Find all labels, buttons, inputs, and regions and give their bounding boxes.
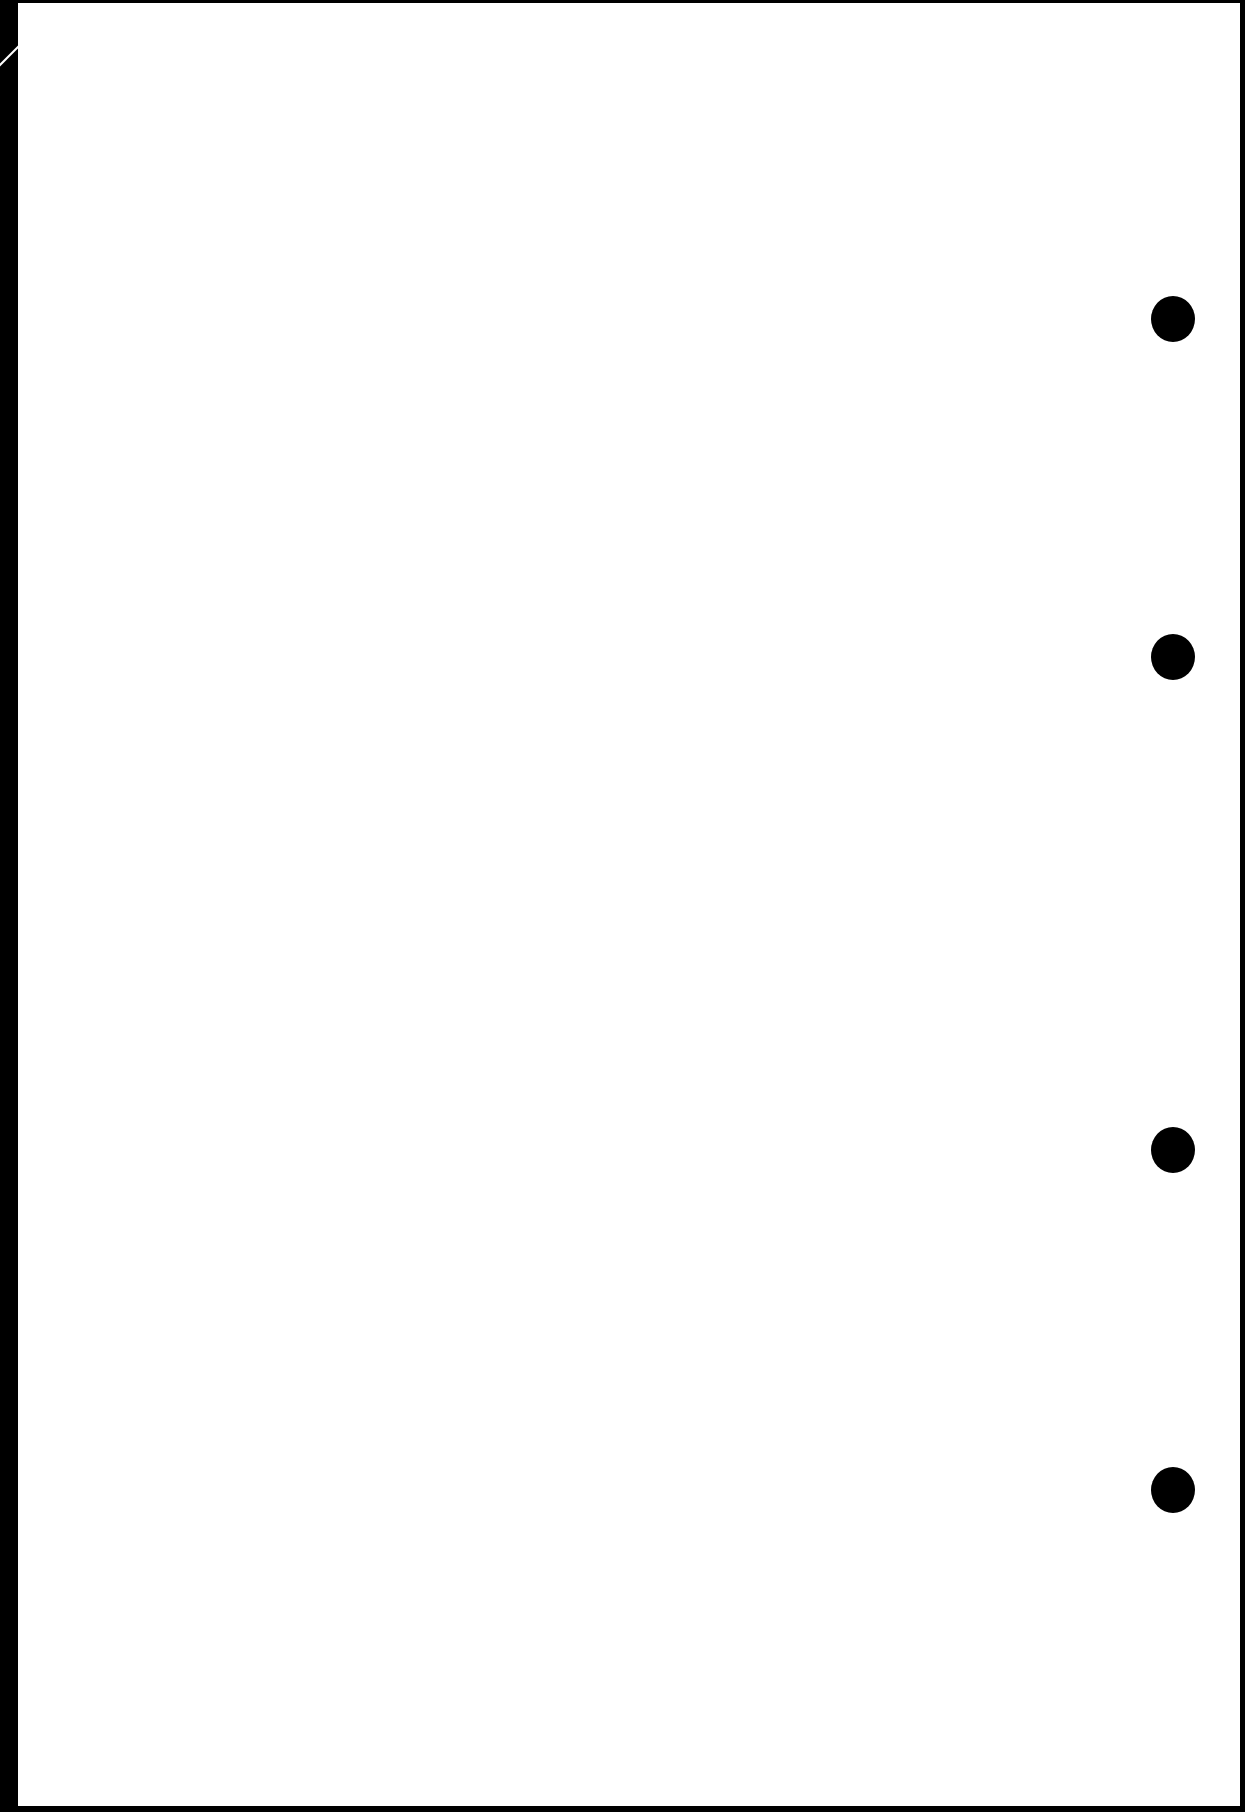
- scan-left-border: [0, 0, 18, 1812]
- punch-hole-4: [1151, 1467, 1195, 1513]
- punch-hole-3: [1151, 1127, 1195, 1173]
- punch-hole-1: [1151, 296, 1195, 342]
- blank-page: [18, 3, 1240, 1806]
- punch-hole-2: [1151, 634, 1195, 680]
